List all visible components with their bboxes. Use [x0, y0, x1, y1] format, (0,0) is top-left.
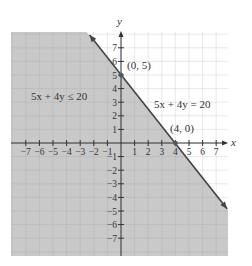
- y-axis-label: y: [116, 15, 122, 27]
- y-tick-label: 4: [112, 84, 117, 94]
- x-tick-label: −6: [34, 147, 44, 157]
- y-tick-label: −3: [107, 179, 117, 189]
- inequality-label: 5x + 4y ≤ 20: [31, 90, 88, 102]
- y-tick-label: 2: [112, 111, 117, 121]
- intercept-point: [173, 141, 178, 146]
- x-tick-label: 1: [132, 147, 137, 157]
- x-tick-label: −5: [48, 147, 58, 157]
- equation-label: 5x + 4y = 20: [154, 98, 211, 110]
- x-tick-label: 5: [187, 147, 192, 157]
- x-tick-label: −7: [21, 147, 31, 157]
- y-tick-label: −5: [107, 207, 117, 217]
- y-tick-label: 3: [112, 98, 117, 108]
- x-axis-label: x: [230, 136, 236, 148]
- shaded-region: [11, 32, 228, 256]
- x-tick-label: −2: [89, 147, 99, 157]
- y-tick-label: −2: [107, 166, 117, 176]
- y-tick-label: −4: [107, 193, 117, 203]
- x-tick-label: 2: [146, 147, 151, 157]
- inequality-chart: −7−6−5−4−3−2−11234567−7−6−5−4−3−2−112345…: [0, 0, 252, 266]
- x-tick-label: −4: [62, 147, 72, 157]
- point-label-0-5: (0, 5): [127, 59, 151, 72]
- intercept-point: [119, 73, 124, 78]
- y-tick-label: 5: [112, 71, 117, 81]
- x-tick-label: −3: [75, 147, 85, 157]
- y-tick-label: −6: [107, 220, 117, 230]
- y-tick-label: 1: [112, 125, 117, 135]
- point-label-4-0: (4, 0): [170, 122, 194, 135]
- x-tick-label: 6: [200, 147, 205, 157]
- y-tick-label: −1: [107, 152, 117, 162]
- x-tick-label: 3: [159, 147, 164, 157]
- y-tick-label: 7: [112, 43, 117, 53]
- y-tick-label: −7: [107, 234, 117, 244]
- x-tick-label: 7: [214, 147, 219, 157]
- x-tick-label: 4: [173, 147, 178, 157]
